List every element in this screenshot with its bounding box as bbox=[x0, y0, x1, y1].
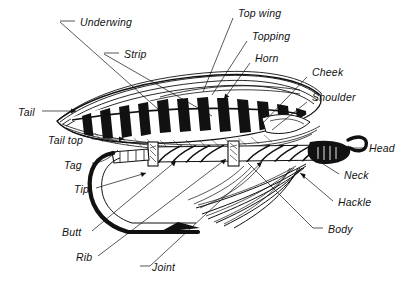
label-butt: Butt bbox=[62, 227, 81, 238]
label-tip: Tip bbox=[74, 184, 89, 195]
label-tail: Tail bbox=[18, 107, 35, 118]
throat-hackle bbox=[196, 164, 306, 228]
fly-anatomy-diagram: Underwing Strip Tail Tail top Tag Tip Bu… bbox=[0, 0, 410, 282]
fly-body-and-hook bbox=[90, 137, 367, 232]
label-joint: Joint bbox=[152, 262, 175, 273]
label-hackle: Hackle bbox=[338, 197, 371, 208]
label-underwing: Underwing bbox=[80, 17, 132, 28]
label-strip: Strip bbox=[124, 49, 147, 60]
label-body: Body bbox=[328, 224, 353, 235]
tag-segment bbox=[112, 149, 149, 163]
label-topping: Topping bbox=[252, 31, 290, 42]
label-cheek: Cheek bbox=[312, 67, 343, 78]
label-neck: Neck bbox=[344, 170, 369, 181]
hook-eye bbox=[348, 137, 366, 151]
label-head: Head bbox=[369, 143, 395, 154]
label-top-wing: Top wing bbox=[238, 8, 281, 19]
body-underfibers bbox=[188, 166, 260, 208]
label-tail-top: Tail top bbox=[48, 135, 83, 146]
fly-head bbox=[308, 141, 351, 164]
label-horn: Horn bbox=[255, 53, 279, 64]
label-shoulder: Shoulder bbox=[312, 92, 356, 103]
label-rib: Rib bbox=[76, 252, 92, 263]
label-tag: Tag bbox=[64, 160, 82, 171]
hook-inner-line bbox=[102, 158, 196, 223]
